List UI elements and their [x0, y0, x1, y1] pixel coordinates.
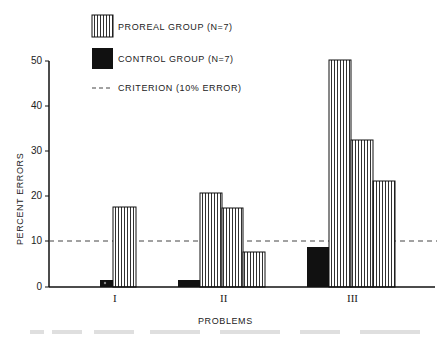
- x-axis-label: PROBLEMS: [198, 316, 253, 326]
- legend-proreal-label: PROREAL GROUP (N=7): [118, 22, 233, 32]
- bar-proreal-II-3: [243, 252, 265, 287]
- cut-off-caption: [30, 329, 430, 335]
- legend-control-label: CONTROL GROUP (N=7): [118, 54, 234, 64]
- bar-proreal-III-3: [373, 181, 395, 287]
- bar-control-I-mark: [104, 282, 106, 284]
- chart-canvas: [0, 0, 446, 337]
- bar-proreal-II-1: [200, 193, 222, 287]
- x-tick-I: I: [113, 292, 117, 304]
- bar-control-I: [100, 280, 113, 287]
- bar-proreal-III-1: [329, 60, 351, 287]
- legend-criterion-label: CRITERION (10% ERROR): [118, 83, 242, 93]
- x-tick-II: II: [220, 292, 227, 304]
- bar-proreal-I: [113, 207, 136, 287]
- y-tick-50: 50: [12, 55, 42, 66]
- bar-proreal-II-2: [222, 208, 243, 287]
- y-tick-40: 40: [12, 100, 42, 111]
- legend-proreal-swatch: [92, 15, 113, 37]
- y-axis-label: PERCENT ERRORS: [15, 165, 25, 245]
- y-tick-0: 0: [12, 281, 42, 292]
- bar-control-III: [307, 247, 329, 287]
- x-tick-III: III: [347, 292, 358, 304]
- bar-proreal-III-2: [351, 140, 373, 287]
- bar-control-II: [178, 280, 200, 287]
- legend-control-swatch: [92, 48, 113, 69]
